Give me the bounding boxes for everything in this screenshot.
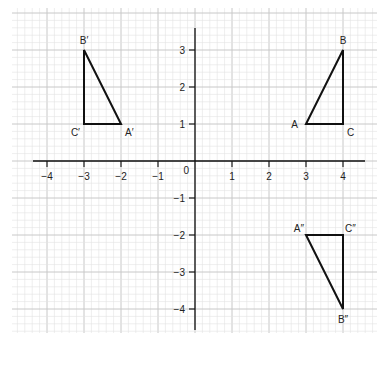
x-tick-label: 3 bbox=[303, 171, 309, 182]
coordinate-grid: −4−3−2−11234321−1−2−3−40 ABCA′B′C′A″B″C″ bbox=[0, 0, 386, 366]
y-tick-label: 2 bbox=[179, 82, 185, 93]
vertex-label: B bbox=[340, 35, 347, 46]
y-tick-label: −1 bbox=[174, 193, 186, 204]
vertex-label: A″ bbox=[294, 223, 305, 234]
x-tick-label: 2 bbox=[266, 171, 272, 182]
y-tick-label: −2 bbox=[174, 230, 186, 241]
vertex-label: B″ bbox=[338, 314, 349, 325]
x-tick-label: −3 bbox=[78, 171, 90, 182]
y-tick-label: 3 bbox=[179, 45, 185, 56]
vertex-label: C bbox=[347, 127, 354, 138]
y-tick-label: −3 bbox=[174, 267, 186, 278]
vertex-label: B′ bbox=[80, 35, 89, 46]
vertex-label: A bbox=[291, 119, 298, 130]
x-tick-label: −1 bbox=[152, 171, 164, 182]
origin-label: 0 bbox=[183, 165, 189, 176]
vertex-label: A′ bbox=[125, 127, 134, 138]
tick-labels: −4−3−2−11234321−1−2−3−40 bbox=[41, 45, 346, 315]
x-tick-label: 1 bbox=[229, 171, 235, 182]
y-tick-label: −4 bbox=[174, 304, 186, 315]
x-tick-label: 4 bbox=[340, 171, 346, 182]
x-tick-label: −2 bbox=[115, 171, 127, 182]
vertex-label: C′ bbox=[71, 127, 80, 138]
y-tick-label: 1 bbox=[179, 119, 185, 130]
x-tick-label: −4 bbox=[41, 171, 53, 182]
vertex-label: C″ bbox=[345, 223, 356, 234]
triangle-abc-double-prime: A″B″C″ bbox=[294, 223, 356, 325]
